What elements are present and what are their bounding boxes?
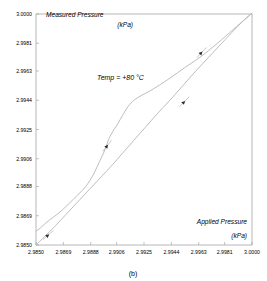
x-tick-label: 2.9981 <box>217 249 233 255</box>
x-tick-label: 2.9850 <box>28 249 44 255</box>
y-tick-label: 2.9850 <box>16 242 32 248</box>
figure-container: 2.98502.98692.98882.99062.99252.99442.99… <box>0 0 267 281</box>
y-tick-label: 3.0000 <box>16 11 32 17</box>
x-tick-label: 2.9906 <box>109 249 125 255</box>
x-tick-label: 2.9888 <box>83 249 99 255</box>
x-tick-label: 2.9963 <box>191 249 207 255</box>
y-axis-title: Measured Pressure <box>46 11 104 18</box>
y-tick-label: 2.9925 <box>16 127 32 133</box>
x-axis-tick-labels: 2.98502.98692.98882.99062.99252.99442.99… <box>28 249 260 255</box>
x-axis-title: Applied Pressure <box>196 218 248 226</box>
figure-caption: (b) <box>129 270 138 278</box>
y-tick-label: 2.9888 <box>16 183 32 189</box>
x-tick-label: 2.9869 <box>55 249 71 255</box>
y-tick-label: 2.9869 <box>16 213 32 219</box>
y-tick-label: 2.9944 <box>16 97 32 103</box>
y-tick-label: 2.9963 <box>16 68 32 74</box>
x-axis-unit: (kPa) <box>231 232 247 240</box>
y-tick-label: 2.9981 <box>16 40 32 46</box>
x-tick-label: 3.0000 <box>244 249 260 255</box>
temperature-annotation: Temp = +80 °C <box>97 74 145 82</box>
x-tick-label: 2.9944 <box>163 249 179 255</box>
y-tick-label: 2.9906 <box>16 156 32 162</box>
y-axis-unit: (kPa) <box>117 21 133 29</box>
hysteresis-chart: 2.98502.98692.98882.99062.99252.99442.99… <box>0 0 267 281</box>
x-tick-label: 2.9925 <box>136 249 152 255</box>
